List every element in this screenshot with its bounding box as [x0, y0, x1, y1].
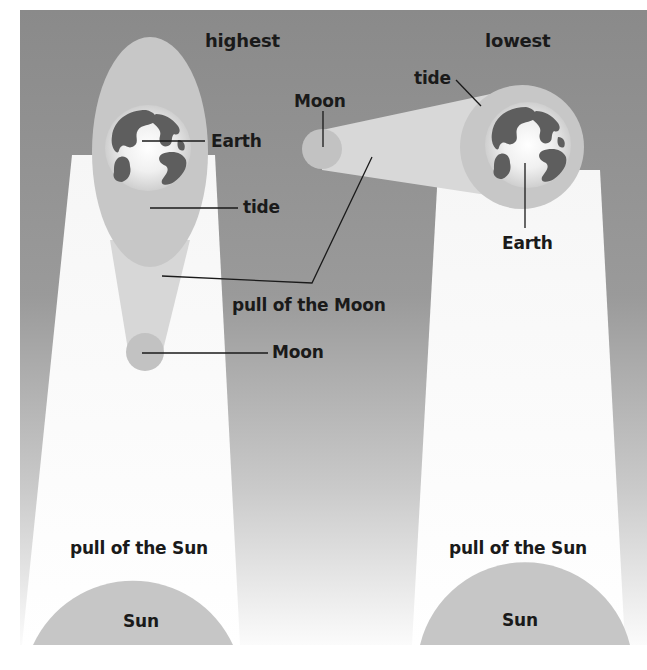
right-sun-label: Sun	[502, 612, 538, 629]
left-tide-label: tide	[243, 199, 280, 216]
left-sun-label: Sun	[123, 613, 159, 630]
left-earth	[105, 105, 191, 191]
right-sun-pull-label: pull of the Sun	[449, 540, 587, 557]
right-moon-label: Moon	[294, 93, 346, 110]
right-moon	[302, 129, 342, 169]
left-moon	[126, 333, 164, 371]
left-earth-label: Earth	[211, 133, 262, 150]
right-title-lowest: lowest	[485, 32, 551, 50]
left-moon-pull-label: pull of the Moon	[232, 297, 386, 314]
left-title-highest: highest	[205, 32, 280, 50]
left-moon-label: Moon	[272, 344, 324, 361]
right-earth-label: Earth	[502, 235, 553, 252]
left-sun-pull-label: pull of the Sun	[70, 540, 208, 557]
right-tide-label: tide	[414, 70, 451, 87]
right-earth	[485, 102, 571, 188]
